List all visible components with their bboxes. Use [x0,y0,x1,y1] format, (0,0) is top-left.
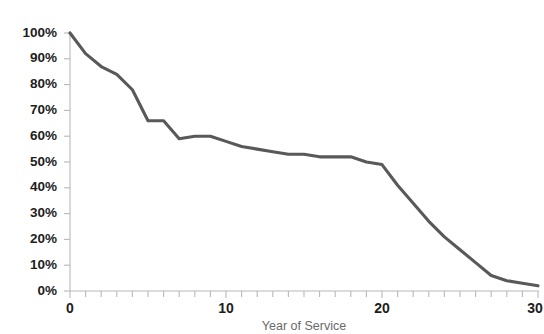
y-tick-label: 0% [37,283,57,298]
x-tick-label: 20 [374,300,390,316]
y-tick-label: 70% [30,102,57,117]
y-tick-label: 60% [30,128,57,143]
y-tick-label: 20% [30,231,57,246]
x-axis-minor-tick-marks [86,291,523,297]
y-tick-label: 40% [30,179,57,194]
y-tick-label: 100% [22,25,57,40]
y-tick-label: 10% [30,257,57,272]
chart-plot-area: 100% 90% 80% 70% 60% 50% 40% 30% 20% 10%… [0,0,544,334]
y-tick-label: 50% [30,154,57,169]
x-tick-label: 30 [527,300,543,316]
y-tick-label: 90% [30,50,57,65]
y-tick-label: 30% [30,205,57,220]
x-axis-title: Year of Service [262,319,346,333]
y-axis-tick-marks [64,33,70,291]
x-axis-tick-labels: 0 10 20 30 [66,300,543,316]
x-tick-label: 10 [218,300,234,316]
y-axis-tick-labels: 100% 90% 80% 70% 60% 50% 40% 30% 20% 10%… [22,25,57,298]
y-tick-label: 80% [30,76,57,91]
data-series-line [70,33,538,286]
retention-line-chart: 100% 90% 80% 70% 60% 50% 40% 30% 20% 10%… [0,0,544,334]
x-tick-label: 0 [66,300,74,316]
